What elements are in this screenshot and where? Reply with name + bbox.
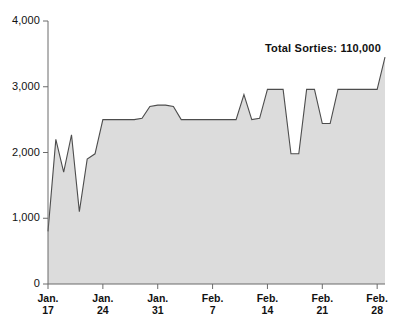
- y-axis-ticks: [43, 21, 48, 284]
- x-axis-tick-label: Feb.21: [297, 292, 347, 316]
- x-axis-tick-label: Jan.24: [78, 292, 128, 316]
- x-axis-tick-label: Jan.17: [23, 292, 73, 316]
- x-tick-month: Jan.: [147, 292, 168, 304]
- x-tick-day: 31: [133, 304, 183, 316]
- x-tick-day: 7: [188, 304, 238, 316]
- x-axis-ticks: [48, 284, 377, 289]
- x-tick-month: Feb.: [202, 292, 224, 304]
- x-tick-day: 21: [297, 304, 347, 316]
- x-axis-tick-label: Feb.7: [188, 292, 238, 316]
- y-axis-tick-label: 1,000: [12, 211, 40, 223]
- x-tick-day: 17: [23, 304, 73, 316]
- x-tick-day: 28: [352, 304, 399, 316]
- x-tick-month: Feb.: [312, 292, 334, 304]
- y-axis-tick-label: 2,000: [12, 146, 40, 158]
- y-axis-tick-label: 4,000: [12, 14, 40, 26]
- x-axis-tick-label: Jan.31: [133, 292, 183, 316]
- area-fill-series-daily-sorties: [48, 57, 385, 284]
- x-axis-tick-label: Feb.28: [352, 292, 399, 316]
- x-tick-day: 14: [242, 304, 292, 316]
- sorties-area-chart: 4,0003,0002,0001,0000 Jan.17Jan.24Jan.31…: [0, 0, 399, 325]
- x-tick-month: Feb.: [257, 292, 279, 304]
- x-tick-month: Feb.: [366, 292, 388, 304]
- y-axis-tick-label: 0: [34, 277, 40, 289]
- total-sorties-annotation: Total Sorties: 110,000: [265, 42, 381, 54]
- x-axis-tick-label: Feb.14: [242, 292, 292, 316]
- x-tick-day: 24: [78, 304, 128, 316]
- x-tick-month: Jan.: [37, 292, 58, 304]
- x-tick-month: Jan.: [92, 292, 113, 304]
- y-axis-tick-label: 3,000: [12, 80, 40, 92]
